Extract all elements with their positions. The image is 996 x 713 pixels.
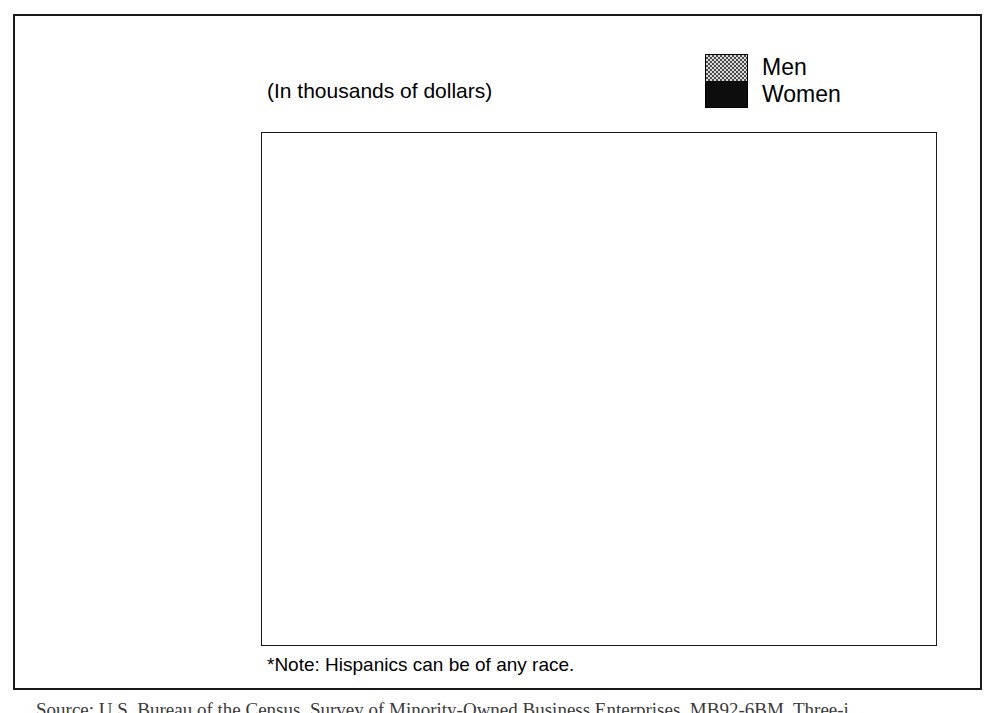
chart-legend: Men Women bbox=[705, 54, 841, 108]
legend-swatch bbox=[705, 54, 748, 108]
legend-label-list: Men Women bbox=[762, 54, 841, 108]
figure-outer-frame: Men Women (In thousands of dollars) *Not… bbox=[13, 14, 982, 690]
legend-label-women: Women bbox=[762, 81, 841, 108]
bars-container bbox=[262, 133, 936, 645]
plot-area bbox=[261, 132, 937, 646]
chart-footnote: *Note: Hispanics can be of any race. bbox=[267, 654, 574, 676]
chart-subtitle: (In thousands of dollars) bbox=[267, 79, 492, 103]
legend-swatch-men bbox=[706, 55, 747, 81]
legend-label-men: Men bbox=[762, 54, 841, 81]
legend-swatch-women bbox=[706, 81, 747, 107]
source-caption: Source: U.S. Bureau of the Census, Surve… bbox=[36, 699, 849, 713]
